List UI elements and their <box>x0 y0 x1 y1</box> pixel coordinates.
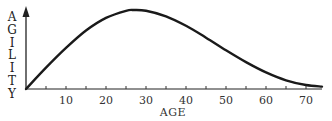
agility-age-chart <box>0 0 332 121</box>
y-label-letter: T <box>6 75 18 87</box>
x-tick-label: 30 <box>139 94 153 107</box>
x-tick-label: 50 <box>219 94 233 107</box>
x-tick-label: 70 <box>299 94 313 107</box>
x-tick-label: 10 <box>59 94 73 107</box>
y-axis-arrow-icon <box>23 6 30 17</box>
x-tick-label: 60 <box>259 94 273 107</box>
agility-curve <box>26 10 322 89</box>
y-label-letter: I <box>6 62 18 74</box>
y-label-letter: L <box>6 49 18 61</box>
x-axis-label: AGE <box>160 106 186 119</box>
y-label-letter: I <box>6 37 18 49</box>
y-label-letter: A <box>6 11 18 23</box>
y-label-letter: G <box>6 24 18 36</box>
y-label-letter: Y <box>6 88 18 100</box>
x-tick-label: 20 <box>99 94 113 107</box>
